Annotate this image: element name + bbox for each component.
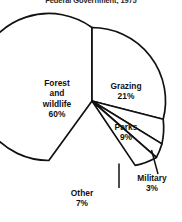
pie-value-grazing: 21% [98,91,154,101]
pie-label-military: Military 3% [126,173,178,194]
pie-label-forest-and-wildlife: Forest and wildlife 60% [26,78,88,120]
pie-label-military-name: Military [126,173,178,183]
pie-label-parks-name: Parks [100,122,152,132]
pie-label-other-name: Other [58,188,106,198]
pie-label-forest-line-2: and [26,88,88,98]
pie-label-parks: Parks 9% [100,122,152,143]
pie-value-military: 3% [126,183,178,193]
pie-label-other: Other 7% [58,188,106,209]
pie-label-forest-line-3: wildlife [26,99,88,109]
pie-value-parks: 9% [100,132,152,142]
pie-label-forest-line-1: Forest [26,78,88,88]
pie-label-grazing: Grazing 21% [98,81,154,102]
pie-chart-figure: Federal Government, 1975 Forest and wild… [0,0,182,222]
pie-label-grazing-name: Grazing [98,81,154,91]
pie-value-other: 7% [58,198,106,208]
pie-value-forest-and-wildlife: 60% [26,109,88,119]
